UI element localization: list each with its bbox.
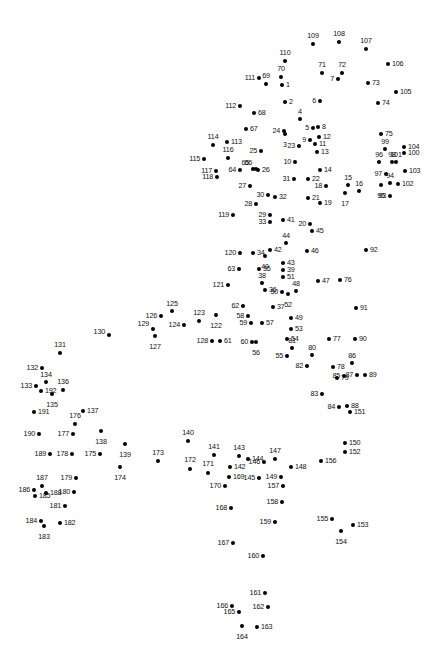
dot-marker [318,168,322,172]
dot-number-label: 84 [327,403,335,410]
dot-marker [61,388,65,392]
dot-number-label: 152 [349,448,360,455]
dot-marker [320,392,324,396]
connect-the-dots-canvas: 1234567891011121314151617181920212223242… [0,0,431,659]
dot-number-label: 22 [312,175,320,182]
dot-number-label: 143 [233,444,244,451]
dot-marker [273,520,277,524]
dot-marker [383,147,387,151]
dot-marker [327,337,331,341]
dot-marker [379,132,383,136]
dot-marker [353,337,357,341]
dot-number-label: 171 [202,460,213,467]
dot-number-label: 136 [57,378,68,385]
dot-marker [271,305,275,309]
dot-number-label: 155 [317,515,328,522]
dot-marker [351,523,355,527]
dot-number-label: 130 [94,328,105,335]
dot-number-label: 149 [266,473,277,480]
dot-number-label: 139 [119,451,130,458]
dot-marker [324,184,328,188]
dot-marker [339,529,343,533]
dot-number-label: 160 [248,552,259,559]
dot-number-label: 131 [54,341,65,348]
dot-marker [257,76,261,80]
dot-number-label: 166 [217,602,228,609]
dot-marker [72,490,76,494]
dot-number-label: 26 [262,166,270,173]
dot-number-label: 102 [402,180,413,187]
dot-marker [159,314,163,318]
dot-marker [99,429,103,433]
dot-number-label: 163 [261,623,272,630]
dot-marker [280,83,284,87]
dot-number-label: 181 [50,502,61,509]
dot-marker [337,40,341,44]
dot-number-label: 50 [270,288,278,295]
dot-marker [260,281,264,285]
dot-marker [241,304,245,308]
dot-marker [263,254,267,258]
dot-number-label: 81 [288,337,296,344]
dot-marker [294,289,298,293]
dot-marker [227,475,231,479]
dot-marker [338,278,342,282]
dot-marker [156,459,160,463]
dot-marker [74,476,78,480]
dot-number-label: 153 [357,521,368,528]
dot-marker [238,251,242,255]
dot-marker [266,605,270,609]
dot-number-label: 145 [244,474,255,481]
dot-marker [229,506,233,510]
dot-number-label: 146 [249,458,260,465]
dot-marker [308,222,312,226]
dot-number-label: 6 [312,97,316,104]
dot-marker [223,484,227,488]
dot-number-label: 127 [149,343,160,350]
dot-number-label: 38 [258,272,266,279]
dot-number-label: 42 [274,246,282,253]
dot-marker [348,410,352,414]
dot-marker [255,625,259,629]
dot-marker [210,339,214,343]
dot-marker [212,453,216,457]
dot-number-label: 72 [338,61,346,68]
dot-marker [257,476,261,480]
dot-marker [225,140,229,144]
dot-number-label: 108 [333,30,344,37]
dot-marker [32,410,36,414]
dot-number-label: 189 [35,450,46,457]
dot-marker [254,167,258,171]
dot-marker [263,591,267,595]
dot-number-label: 158 [267,498,278,505]
dot-marker [305,364,309,368]
dot-marker [293,160,297,164]
dot-number-label: 124 [169,321,180,328]
dot-marker [343,191,347,195]
dot-marker [32,488,36,492]
dot-number-label: 82 [295,362,303,369]
dot-number-label: 2 [289,98,293,105]
dot-marker [403,169,407,173]
dot-number-label: 167 [218,539,229,546]
dot-marker [73,422,77,426]
dot-number-label: 156 [325,457,336,464]
dot-marker [377,160,381,164]
dot-marker [279,475,283,479]
dot-marker [279,75,283,79]
dot-number-label: 182 [64,519,75,526]
dot-marker [262,460,266,464]
dot-marker [246,314,250,318]
dot-marker [218,339,222,343]
dot-number-label: 66 [244,159,252,166]
dot-number-label: 64 [228,166,236,173]
dot-number-label: 178 [57,450,68,457]
dot-marker [285,354,289,358]
dot-number-label: 31 [282,175,290,182]
dot-number-label: 186 [19,486,30,493]
dot-marker [39,389,43,393]
dot-number-label: 187 [36,474,47,481]
dot-number-label: 18 [314,182,322,189]
dot-marker [70,452,74,456]
dot-marker [402,151,406,155]
